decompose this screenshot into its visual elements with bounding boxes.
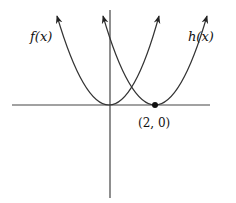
curve-f (57, 16, 159, 105)
label-point-2-0: (2, 0) (138, 117, 170, 129)
label-f-of-x: f(x) (30, 30, 52, 43)
label-h-of-x: h(x) (188, 30, 214, 43)
point-2-0-marker (152, 102, 158, 108)
label-h-text: h(x) (188, 29, 214, 44)
label-point-text: (2, 0) (138, 116, 170, 130)
label-f-text: f(x) (30, 29, 52, 44)
